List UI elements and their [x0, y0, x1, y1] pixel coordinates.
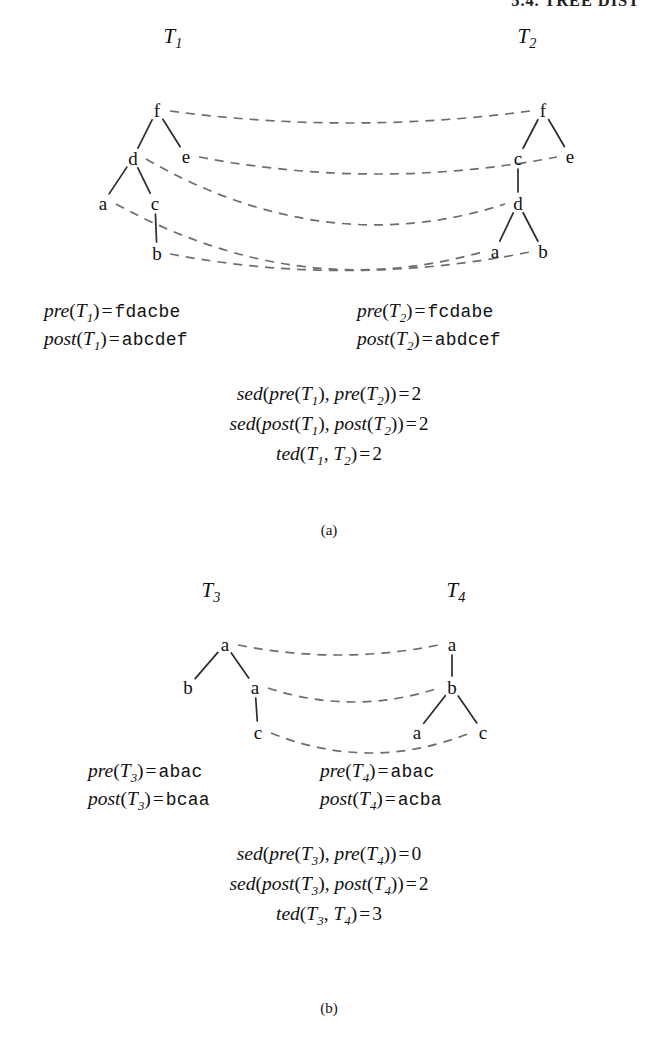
- tree-node-c: c: [479, 723, 487, 742]
- sequence-post-T1: post(T1)=abcdef: [44, 328, 188, 354]
- tree-node-d: d: [128, 149, 138, 168]
- tree-edge: [256, 698, 258, 721]
- tree-node-b: b: [152, 244, 162, 263]
- tree-node-b: b: [183, 678, 193, 697]
- tree-node-a: a: [251, 678, 259, 697]
- tree-diagram-a: [0, 0, 658, 290]
- result-sed-post: sed(post(T3), post(T4))=2: [229, 873, 428, 899]
- sequence-post-T3: post(T3)=bcaa: [88, 788, 210, 814]
- tree-node-a: a: [448, 635, 456, 654]
- mapping-link: [146, 159, 505, 225]
- result-ted: ted(T1, T2)=2: [276, 443, 382, 469]
- tree-title-T1: T1: [164, 24, 183, 52]
- sequence-pre-T4: pre(T4)=abac: [320, 760, 434, 786]
- figure-b: abacT3abacT4 pre(T3)=abacpre(T4)=abacpos…: [0, 560, 658, 1037]
- figure-a: fdeacbT1fcedabT2 pre(T1)=fdacbepre(T2)=f…: [0, 0, 658, 560]
- tree-node-a: a: [491, 242, 499, 261]
- mapping-link: [268, 688, 439, 702]
- tree-edge: [424, 696, 445, 724]
- tree-node-c: c: [514, 149, 522, 168]
- tree-node-e: e: [182, 147, 190, 166]
- result-sed-pre: sed(pre(T1), pre(T2))=2: [237, 383, 422, 409]
- mapping-link: [271, 733, 470, 753]
- tree-edge: [155, 214, 156, 242]
- tree-edge: [138, 120, 152, 148]
- tree-edge: [523, 120, 538, 148]
- tree-node-f: f: [154, 101, 160, 120]
- mapping-link: [170, 111, 530, 123]
- mapping-link: [116, 204, 482, 270]
- tree-node-f: f: [540, 101, 546, 120]
- tree-node-a: a: [221, 635, 229, 654]
- tree-node-a: a: [99, 194, 107, 213]
- sequence-pre-T1: pre(T1)=fdacbe: [44, 300, 180, 326]
- tree-edge: [138, 168, 150, 193]
- tree-title-T3: T3: [202, 578, 221, 606]
- mapping-link: [170, 252, 530, 271]
- figure-caption-a: (a): [321, 522, 338, 539]
- tree-node-e: e: [566, 147, 574, 166]
- tree-edges-svg-a: [0, 0, 658, 290]
- tree-edge: [549, 119, 565, 146]
- result-sed-pre: sed(pre(T3), pre(T4))=0: [237, 843, 422, 869]
- result-ted: ted(T3, T4)=3: [276, 903, 382, 929]
- tree-edge: [500, 213, 513, 241]
- mapping-link: [199, 157, 557, 174]
- tree-title-T4: T4: [447, 578, 466, 606]
- tree-edges-svg-b: [0, 560, 658, 770]
- tree-node-c: c: [151, 194, 159, 213]
- tree-node-d: d: [513, 194, 523, 213]
- tree-node-b: b: [538, 242, 548, 261]
- tree-node-b: b: [447, 678, 457, 697]
- sequence-post-T2: post(T2)=abdcef: [357, 328, 501, 354]
- tree-node-c: c: [254, 723, 262, 742]
- tree-node-a: a: [413, 723, 421, 742]
- tree-diagram-b: [0, 560, 658, 770]
- sequence-pre-T3: pre(T3)=abac: [88, 760, 202, 786]
- tree-edge: [163, 119, 180, 146]
- tree-edge: [231, 653, 248, 678]
- tree-edge: [458, 696, 477, 723]
- figure-caption-b: (b): [320, 1000, 338, 1017]
- result-sed-post: sed(post(T1), post(T2))=2: [229, 413, 428, 439]
- tree-edge: [109, 167, 127, 194]
- tree-title-T2: T2: [518, 24, 537, 52]
- tree-edge: [523, 213, 538, 241]
- sequence-post-T4: post(T4)=acba: [320, 788, 442, 814]
- figure-page: 5.4. TREE DIST fdeacbT1fcedabT2 pre(T1)=…: [0, 0, 658, 1037]
- tree-edge: [195, 652, 218, 678]
- mapping-link: [238, 645, 439, 655]
- sequence-pre-T2: pre(T2)=fcdabe: [357, 300, 493, 326]
